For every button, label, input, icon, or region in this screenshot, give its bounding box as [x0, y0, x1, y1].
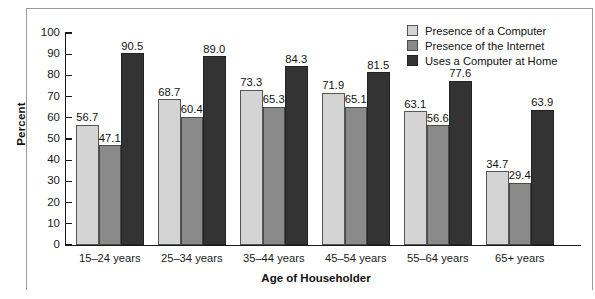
bar-value-label: 81.5	[363, 60, 394, 71]
bar	[158, 99, 181, 245]
bar	[99, 145, 122, 245]
bar-value-label: 34.7	[482, 159, 513, 170]
chart-figure: 0102030405060708090100 Percent 15–24 yea…	[0, 0, 595, 299]
legend-item: Uses a Computer at Home	[407, 54, 587, 68]
chart-legend: Presence of a ComputerPresence of the In…	[407, 24, 587, 69]
bar-value-label: 47.1	[95, 133, 126, 144]
bar	[449, 81, 472, 246]
legend-item-label: Uses a Computer at Home	[425, 55, 557, 67]
y-axis-tick-label: 90	[30, 48, 60, 60]
bar-value-label: 65.3	[259, 94, 290, 105]
legend-item-label: Presence of the Internet	[425, 40, 544, 52]
bar	[322, 93, 345, 245]
x-axis-title: Age of Householder	[66, 272, 566, 284]
bar	[181, 117, 204, 245]
bar	[404, 111, 427, 245]
legend-swatch-icon	[407, 40, 418, 51]
bar-value-label: 60.4	[177, 104, 208, 115]
legend-swatch-icon	[407, 25, 418, 36]
bar-value-label: 63.9	[527, 97, 558, 108]
bar	[121, 53, 144, 245]
bar-value-label: 84.3	[281, 54, 312, 65]
legend-item: Presence of the Internet	[407, 39, 587, 53]
legend-item: Presence of a Computer	[407, 24, 587, 38]
y-axis-title: Percent	[15, 94, 27, 154]
bar-value-label: 56.6	[423, 113, 454, 124]
bar-value-label: 73.3	[236, 77, 267, 88]
y-axis-tick-label: 0	[30, 239, 60, 251]
y-axis-tick-label: 40	[30, 154, 60, 166]
bar-value-label: 63.1	[400, 99, 431, 110]
x-axis-category-label: 65+ years	[472, 252, 568, 264]
bar-value-label: 29.4	[505, 170, 536, 181]
bar	[345, 107, 368, 245]
bar-value-label: 89.0	[199, 44, 230, 55]
y-axis-tick-label: 10	[30, 218, 60, 230]
chart-frame-border-right	[592, 8, 593, 290]
y-axis-tick-label: 80	[30, 69, 60, 81]
bar	[486, 171, 509, 245]
y-axis-tick-label: 60	[30, 112, 60, 124]
bar-value-label: 65.1	[341, 94, 372, 105]
bar-value-label: 71.9	[318, 80, 349, 91]
y-axis-tick-label: 100	[30, 27, 60, 39]
y-axis-tick-label: 50	[30, 133, 60, 145]
y-axis-tick-label: 70	[30, 91, 60, 103]
bar-value-label: 68.7	[154, 87, 185, 98]
bar-value-label: 77.6	[445, 68, 476, 79]
y-axis-tick-label: 20	[30, 197, 60, 209]
legend-swatch-icon	[407, 55, 418, 66]
bar-value-label: 56.7	[72, 112, 103, 123]
x-axis-line	[65, 245, 581, 246]
legend-item-label: Presence of a Computer	[425, 25, 546, 37]
bar-value-label: 90.5	[117, 41, 148, 52]
y-axis-tick-label: 30	[30, 175, 60, 187]
bar	[240, 90, 263, 245]
bar	[427, 125, 450, 245]
bar	[203, 56, 226, 245]
bar	[263, 107, 286, 245]
bar	[509, 183, 532, 245]
y-axis-tick-labels: 0102030405060708090100	[28, 0, 60, 299]
